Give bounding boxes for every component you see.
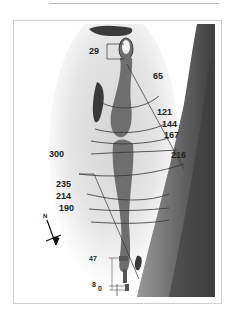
label-tee-47: 47	[89, 254, 97, 263]
label-green-front: 29	[89, 47, 99, 56]
compass-icon	[46, 220, 61, 245]
hole-graphic	[19, 24, 215, 297]
label-216: 216	[171, 151, 186, 160]
label-121: 121	[157, 108, 172, 117]
label-235: 235	[56, 180, 71, 189]
green	[122, 40, 130, 54]
label-65: 65	[153, 72, 163, 81]
label-300: 300	[49, 150, 64, 159]
label-190: 190	[59, 204, 74, 213]
label-tee-0: 0	[98, 284, 102, 293]
tee-box-back	[119, 256, 128, 261]
golf-hole-map: 29 65 121 144 167 216 300 235 214 190 47…	[19, 24, 215, 297]
label-144: 144	[162, 120, 177, 129]
label-214: 214	[56, 192, 71, 201]
label-tee-8: 8	[92, 280, 96, 289]
tee-box-middle	[123, 269, 127, 283]
label-167: 167	[164, 131, 179, 140]
compass-north-label: N	[43, 212, 47, 221]
header-rule	[49, 3, 219, 4]
